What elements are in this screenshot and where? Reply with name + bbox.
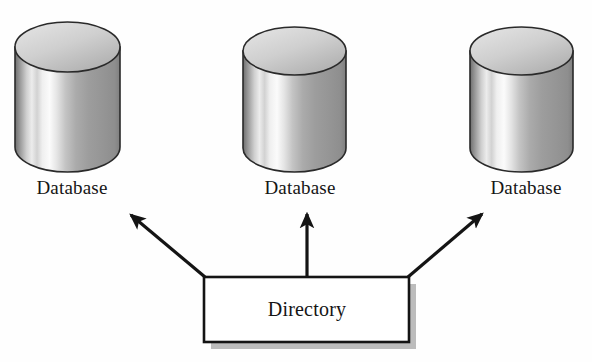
diagram-canvas: Database Database Database Directory [0, 0, 592, 362]
database-label-left: Database [12, 178, 132, 198]
cylinder-top [15, 22, 120, 72]
database-cylinder-left [15, 22, 120, 172]
directory-label: Directory [205, 298, 409, 320]
database-label-right: Database [466, 178, 586, 198]
arrow-to-left-database [131, 215, 205, 277]
database-label-center: Database [240, 178, 360, 198]
database-cylinder-right [470, 27, 573, 172]
database-cylinder-center [243, 27, 346, 172]
arrow-to-right-database [408, 214, 482, 277]
cylinder-top [243, 27, 346, 75]
cylinder-top [470, 27, 573, 75]
